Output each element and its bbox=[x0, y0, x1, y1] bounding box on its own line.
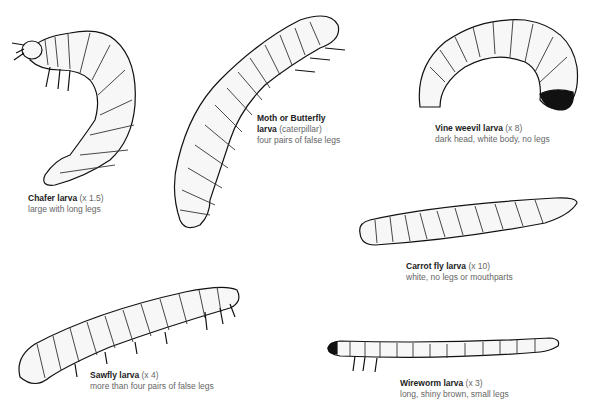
larva-scale: (x 10) bbox=[468, 261, 490, 271]
vine-weevil-larva-caption: Vine weevil larva (x 8) dark head, white… bbox=[435, 123, 550, 145]
larva-scale: (x 3) bbox=[466, 378, 483, 388]
larva-description: more than four pairs of false legs bbox=[90, 381, 214, 392]
wireworm-larva-caption: Wireworm larva (x 3) long, shiny brown, … bbox=[400, 378, 509, 400]
larva-scale: (x 8) bbox=[505, 123, 522, 133]
larva-name: Sawfly larva bbox=[90, 370, 139, 380]
wireworm-larva-illustration bbox=[325, 336, 565, 376]
larva-description: dark head, white body, no legs bbox=[435, 134, 550, 145]
moth-larva-caption: Moth or Butterfly larva (caterpillar) fo… bbox=[257, 113, 340, 146]
chafer-larva-illustration bbox=[10, 25, 140, 190]
larva-note: (caterpillar) bbox=[279, 124, 322, 134]
larva-name: Wireworm larva bbox=[400, 378, 463, 388]
carrot-fly-larva-caption: Carrot fly larva (x 10) white, no legs o… bbox=[406, 261, 513, 283]
larva-description: long, shiny brown, small legs bbox=[400, 389, 509, 400]
chafer-larva-caption: Chafer larva (x 1.5) large with long leg… bbox=[28, 193, 104, 215]
larva-name: Chafer larva bbox=[28, 193, 77, 203]
larva-name: Moth or Butterfly bbox=[257, 113, 325, 123]
vine-weevil-larva-illustration bbox=[415, 12, 585, 112]
larva-name-line2: larva bbox=[257, 124, 277, 134]
carrot-fly-larva-illustration bbox=[355, 195, 580, 250]
larva-name: Carrot fly larva bbox=[406, 261, 466, 271]
sawfly-larva-caption: Sawfly larva (x 4) more than four pairs … bbox=[90, 370, 214, 392]
larva-name: Vine weevil larva bbox=[435, 123, 503, 133]
larva-scale: (x 1.5) bbox=[80, 193, 104, 203]
larva-description: four pairs of false legs bbox=[257, 135, 340, 146]
larva-description: large with long legs bbox=[28, 204, 104, 215]
larva-description: white, no legs or mouthparts bbox=[406, 272, 513, 283]
larva-scale: (x 4) bbox=[142, 370, 159, 380]
